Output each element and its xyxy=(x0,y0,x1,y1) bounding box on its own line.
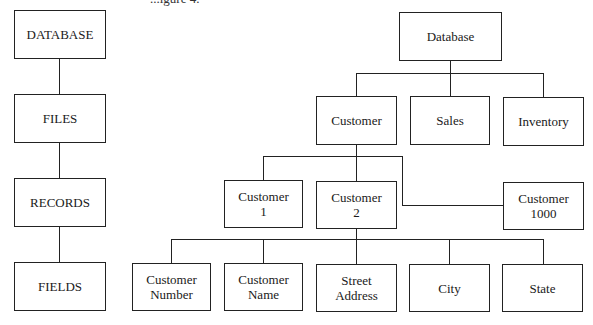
node-city: City xyxy=(409,264,490,312)
connector-line xyxy=(263,156,264,180)
level-records: RECORDS xyxy=(14,178,106,227)
level-files: FILES xyxy=(14,94,106,143)
database-hierarchy-diagram: ...igure 4. DATABASE FILES RECORDS FIELD… xyxy=(0,0,593,325)
connector-line xyxy=(449,239,450,264)
node-customer-number: Customer Number xyxy=(132,263,211,311)
node-state: State xyxy=(502,264,583,312)
connector-line xyxy=(59,227,60,262)
connector-line xyxy=(263,239,264,263)
connector-line xyxy=(356,145,357,181)
node-customer-name: Customer Name xyxy=(224,263,303,311)
connector-line xyxy=(543,239,544,264)
connector-line xyxy=(171,239,172,263)
node-street-address: Street Address xyxy=(316,264,397,312)
connector-line xyxy=(263,156,403,157)
node-sales-file: Sales xyxy=(410,96,490,145)
node-customer-1000: Customer 1000 xyxy=(503,182,584,230)
connector-line xyxy=(59,59,60,94)
connector-line xyxy=(356,229,357,264)
node-database: Database xyxy=(399,12,502,61)
connector-line xyxy=(59,143,60,178)
connector-line xyxy=(402,205,503,206)
node-customer-2: Customer 2 xyxy=(316,181,397,229)
caption-fragment: ...igure 4. xyxy=(150,0,199,7)
level-database: DATABASE xyxy=(14,10,106,59)
connector-line xyxy=(402,156,403,206)
connector-line xyxy=(356,73,357,96)
node-customer-file: Customer xyxy=(316,96,397,145)
node-inventory-file: Inventory xyxy=(503,97,584,146)
node-customer-1: Customer 1 xyxy=(224,180,303,228)
connector-line xyxy=(171,239,544,240)
connector-line xyxy=(450,73,451,96)
level-fields: FIELDS xyxy=(14,262,106,311)
connector-line xyxy=(543,73,544,97)
